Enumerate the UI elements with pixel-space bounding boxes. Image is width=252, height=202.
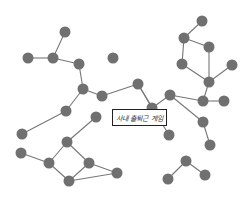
node — [84, 158, 95, 169]
node — [74, 59, 85, 70]
node — [219, 96, 230, 107]
node — [197, 16, 208, 27]
node — [164, 130, 175, 141]
node — [133, 79, 144, 90]
node — [181, 156, 192, 167]
node — [112, 168, 123, 179]
node — [205, 140, 216, 151]
node — [62, 137, 73, 148]
network-diagram — [0, 0, 252, 202]
node — [97, 91, 108, 102]
node — [198, 96, 209, 107]
node — [60, 27, 71, 38]
node — [198, 117, 209, 128]
node — [48, 53, 59, 64]
node — [227, 60, 238, 71]
edge — [102, 84, 138, 96]
node — [108, 53, 119, 64]
node — [16, 148, 27, 159]
node — [204, 42, 215, 53]
edge — [22, 111, 66, 134]
node — [163, 174, 174, 185]
node — [23, 53, 34, 64]
node — [204, 77, 215, 88]
node — [44, 158, 55, 169]
node — [177, 59, 188, 70]
nodes — [16, 16, 238, 187]
node — [17, 129, 28, 140]
node — [200, 170, 211, 181]
node — [64, 176, 75, 187]
edge — [67, 117, 96, 142]
node — [179, 33, 190, 44]
node — [165, 90, 176, 101]
title-label-box: 사내 출퇴근 게임 — [112, 109, 167, 126]
node — [61, 106, 72, 117]
node — [78, 84, 89, 95]
node — [91, 112, 102, 123]
title-label: 사내 출퇴근 게임 — [116, 113, 162, 123]
